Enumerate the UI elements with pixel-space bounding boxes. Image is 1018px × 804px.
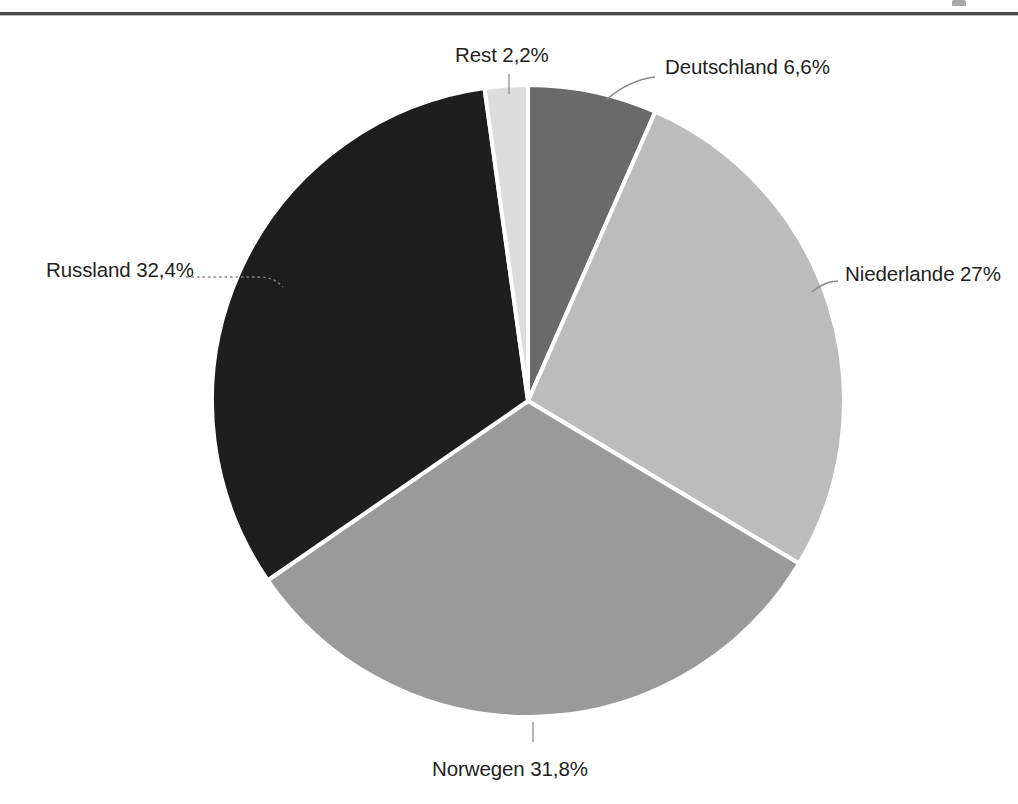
pie-label-russland: Russland 32,4%: [46, 258, 194, 282]
pie-label-deutschland: Deutschland 6,6%: [665, 55, 830, 79]
pie-label-rest: Rest 2,2%: [455, 43, 549, 67]
pie-label-norwegen: Norwegen 31,8%: [432, 757, 588, 781]
page-root: Rest 2,2% Deutschland 6,6% Niederlande 2…: [0, 0, 1018, 804]
pie-chart: Rest 2,2% Deutschland 6,6% Niederlande 2…: [0, 0, 1018, 804]
pie-chart-svg: [0, 0, 1018, 804]
pie-slice-group: [212, 85, 844, 717]
pie-label-niederlande: Niederlande 27%: [845, 262, 1001, 286]
